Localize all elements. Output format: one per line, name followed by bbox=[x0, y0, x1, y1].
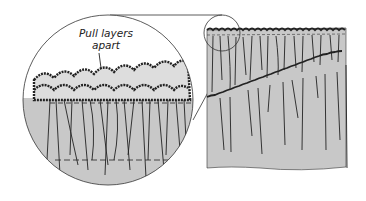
curtain-diagram: Pull layers apart bbox=[0, 0, 366, 201]
annotation-line-2: apart bbox=[66, 39, 146, 51]
curtain-full-view bbox=[207, 28, 347, 170]
annotation-line-1: Pull layers bbox=[66, 27, 146, 39]
annotation-label: Pull layers apart bbox=[66, 27, 146, 51]
illustration bbox=[0, 0, 366, 201]
